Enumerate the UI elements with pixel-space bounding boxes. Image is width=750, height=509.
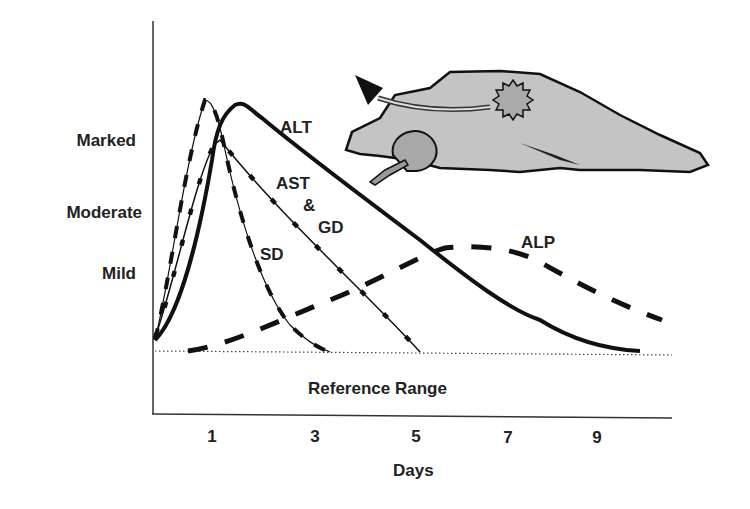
reference-range-label: Reference Range xyxy=(308,379,447,399)
chart-canvas xyxy=(0,0,750,509)
duct xyxy=(370,160,408,185)
y-tick-mild: Mild xyxy=(0,264,136,284)
label-amp: & xyxy=(303,196,315,216)
liver-illustration xyxy=(346,71,708,185)
x-tick-7: 7 xyxy=(503,428,512,448)
label-sd: SD xyxy=(260,245,284,265)
x-tick-1: 1 xyxy=(207,427,216,447)
reference-line xyxy=(155,351,672,355)
x-axis xyxy=(152,414,672,418)
label-gd: GD xyxy=(318,218,344,238)
label-alt: ALT xyxy=(280,118,312,138)
y-tick-marked: Marked xyxy=(0,131,136,151)
x-tick-5: 5 xyxy=(411,427,420,447)
x-axis-title: Days xyxy=(393,461,434,481)
x-tick-9: 9 xyxy=(592,428,601,448)
label-alp: ALP xyxy=(521,233,555,253)
label-ast: AST xyxy=(276,174,310,194)
x-tick-3: 3 xyxy=(310,427,319,447)
y-tick-moderate: Moderate xyxy=(0,203,142,223)
